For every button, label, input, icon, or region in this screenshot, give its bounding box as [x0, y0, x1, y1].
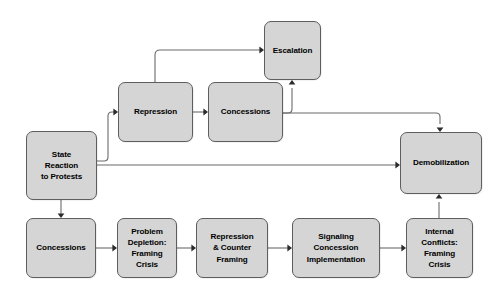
- node-state_reaction[interactable]: State Reaction to Protests: [26, 131, 97, 200]
- edge-concessions-top-to-demobilization: [283, 113, 443, 132]
- edge-problem-depletion-to-repression-counter: [177, 245, 196, 252]
- node-concessions_top[interactable]: Concessions: [208, 82, 283, 142]
- node-escalation[interactable]: Escalation: [264, 21, 321, 80]
- edge-repression-counter-to-signaling: [268, 245, 292, 252]
- edge-concessions-top-to-escalation: [283, 80, 295, 113]
- arrowhead-concessions-top-to-escalation: [289, 80, 296, 85]
- node-label: Internal Conflicts: Framing Crisis: [421, 226, 457, 271]
- node-repression_counter_framing[interactable]: Repression & Counter Framing: [196, 218, 268, 278]
- node-label: Repression & Counter Framing: [210, 231, 253, 265]
- node-demobilization[interactable]: Demobilization: [400, 132, 482, 194]
- node-label: Demobilization: [413, 157, 469, 168]
- node-label: Repression: [134, 106, 177, 117]
- edge-concessions-bottom-to-problem-depletion: [96, 245, 117, 252]
- node-internal_conflicts[interactable]: Internal Conflicts: Framing Crisis: [406, 218, 473, 278]
- arrowhead-internal-conflicts-to-demobilization: [436, 194, 443, 199]
- node-label: Concessions: [221, 106, 270, 117]
- node-label: State Reaction to Protests: [41, 149, 82, 183]
- edge-repression-to-concessions-top: [193, 109, 208, 116]
- node-label: Escalation: [273, 45, 313, 56]
- node-repression[interactable]: Repression: [118, 82, 193, 142]
- edge-internal-conflicts-to-demobilization: [436, 194, 443, 218]
- edge-signaling-to-internal-conflicts: [380, 245, 406, 252]
- edge-state-to-demobilization: [97, 162, 400, 169]
- edge-repression-to-escalation: [155, 47, 264, 82]
- node-signaling_concession[interactable]: Signaling Concession Implementation: [292, 218, 380, 278]
- node-problem_depletion[interactable]: Problem Depletion: Framing Crisis: [117, 218, 177, 278]
- node-label: Problem Depletion: Framing Crisis: [128, 226, 167, 271]
- node-label: Concessions: [36, 242, 85, 253]
- edge-state-to-concessions-bottom: [58, 200, 65, 218]
- diagram-canvas: EscalationRepressionConcessionsState Rea…: [0, 0, 503, 298]
- node-label: Signaling Concession Implementation: [307, 231, 365, 265]
- edge-state-to-repression: [97, 109, 118, 161]
- node-concessions_bottom[interactable]: Concessions: [26, 218, 96, 278]
